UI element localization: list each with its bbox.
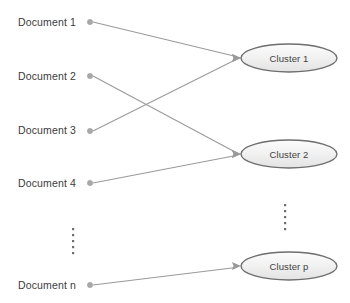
cluster-node-p[interactable]: Cluster p: [241, 252, 337, 280]
arrowhead-icon: [232, 150, 241, 158]
document-label: Document 3: [18, 124, 76, 136]
cluster-label: Cluster 2: [270, 149, 309, 160]
edge-line: [93, 76, 236, 153]
document-dot-icon[interactable]: [87, 73, 92, 78]
document-label: Document 4: [18, 177, 76, 189]
clusters-ellipsis-icon: [284, 204, 286, 230]
cluster-node-2[interactable]: Cluster 2: [241, 140, 337, 168]
edges-group: [93, 22, 241, 285]
edge-line: [93, 60, 236, 132]
document-node-n[interactable]: Document n: [18, 279, 93, 291]
document-label: Document 1: [18, 16, 76, 28]
edge-doc4-cluster2: [93, 150, 241, 183]
edge-doc3-cluster1: [93, 54, 241, 131]
document-node-2[interactable]: Document 2: [18, 70, 93, 82]
cluster-label: Cluster p: [270, 261, 309, 272]
edge-doc1-cluster1: [93, 22, 241, 62]
edge-line: [93, 268, 236, 286]
cluster-node-1[interactable]: Cluster 1: [241, 44, 337, 72]
diagram-canvas: Document 1 Document 2 Document 3 Documen…: [0, 0, 350, 303]
document-node-3[interactable]: Document 3: [18, 124, 93, 136]
document-label: Document 2: [18, 70, 76, 82]
cluster-label: Cluster 1: [270, 53, 309, 64]
edge-line: [93, 156, 236, 184]
documents-ellipsis-icon: [72, 228, 74, 254]
document-dot-icon[interactable]: [87, 180, 92, 185]
clusters-group: Cluster 1 Cluster 2 Cluster p: [241, 44, 337, 280]
documents-group: Document 1 Document 2 Document 3 Documen…: [18, 16, 93, 291]
edge-doc2-cluster2: [93, 76, 241, 158]
arrowhead-icon: [232, 262, 241, 270]
edge-docn-clusterp: [93, 262, 241, 285]
document-cluster-diagram: Document 1 Document 2 Document 3 Documen…: [0, 0, 350, 303]
document-label: Document n: [18, 279, 76, 291]
edge-line: [93, 22, 236, 57]
document-node-1[interactable]: Document 1: [18, 16, 93, 28]
document-dot-icon[interactable]: [87, 128, 92, 133]
document-dot-icon[interactable]: [87, 282, 92, 287]
document-dot-icon[interactable]: [87, 19, 92, 24]
arrowhead-icon: [232, 54, 241, 62]
document-node-4[interactable]: Document 4: [18, 177, 93, 189]
